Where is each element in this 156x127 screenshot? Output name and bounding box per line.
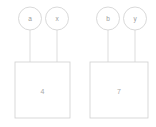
diagram-svg: 4 a x 7 b y xyxy=(0,0,156,127)
node-b-label: b xyxy=(106,15,110,22)
right-group: 7 b y xyxy=(90,7,148,118)
plate-left-label: 4 xyxy=(41,88,45,95)
node-a-label: a xyxy=(28,15,32,22)
left-group: 4 a x xyxy=(15,7,70,118)
plate-right-label: 7 xyxy=(117,88,121,95)
diagram-canvas: 4 a x 7 b y xyxy=(0,0,156,127)
